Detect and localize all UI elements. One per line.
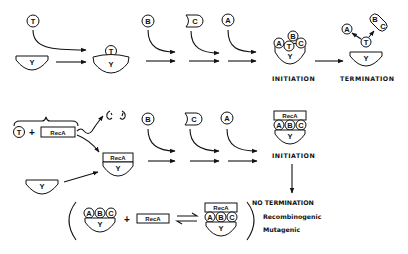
arrow-reca-binding — [77, 135, 99, 152]
svg-text:T: T — [17, 128, 22, 137]
arrow-c-binding — [191, 31, 219, 53]
termination-complex: Y T A B C — [342, 14, 387, 66]
arrow-c-binding-bottom — [190, 129, 219, 151]
molecule-t-top: T — [27, 15, 39, 27]
initiation-complex-top: Y A C B T — [274, 31, 306, 64]
svg-text:C: C — [192, 17, 198, 26]
molecule-y-bottom: Y — [26, 180, 58, 194]
svg-text:A: A — [207, 213, 213, 222]
initiation-complex-bottom: RecA A B C Y — [274, 111, 306, 144]
label-no-termination: NO TERMINATION — [252, 199, 314, 206]
svg-text:Y: Y — [287, 52, 292, 61]
plus-sign-equation: + — [124, 214, 130, 225]
complex-reca-y: RecA Y — [103, 153, 133, 176]
svg-text:Y: Y — [363, 54, 368, 63]
complex-abc-y: A B C Y — [84, 208, 116, 232]
svg-text:A: A — [344, 25, 350, 34]
svg-text:RecA: RecA — [282, 113, 298, 119]
svg-text:Y: Y — [29, 58, 34, 67]
svg-text:B: B — [97, 209, 103, 218]
svg-text:A: A — [225, 16, 231, 25]
svg-text:C: C — [298, 39, 304, 48]
complex-reca-abc-y: RecA A B C Y — [205, 203, 237, 236]
svg-text:B: B — [372, 15, 378, 24]
svg-text:C: C — [191, 115, 197, 124]
svg-text:C: C — [229, 213, 235, 222]
svg-text:B: B — [287, 121, 293, 130]
svg-text:RecA: RecA — [213, 205, 229, 211]
degraded-t-fragments — [107, 111, 125, 119]
svg-text:A: A — [276, 39, 282, 48]
svg-text:T: T — [364, 38, 369, 47]
svg-text:RecA: RecA — [50, 130, 66, 136]
svg-text:B: B — [145, 115, 151, 124]
svg-text:Y: Y — [39, 182, 44, 191]
molecule-a-bottom: A — [221, 112, 233, 124]
svg-text:T: T — [31, 17, 36, 26]
arrow-a-binding-bottom — [227, 129, 257, 151]
arrow-y-bottom — [64, 172, 98, 182]
arrow-a-binding — [228, 30, 256, 52]
svg-text:B: B — [145, 17, 151, 26]
svg-text:C: C — [108, 209, 114, 218]
svg-text:Y: Y — [287, 132, 292, 141]
svg-text:B: B — [218, 213, 224, 222]
molecule-c-top: C — [186, 15, 203, 27]
molecule-b-bottom: B — [142, 113, 154, 125]
label-initiation-bottom: INITIATION — [272, 152, 315, 159]
arrow-b-binding-bottom — [148, 129, 175, 151]
arrow-t-binding — [33, 30, 86, 50]
equilibrium-arrows — [177, 213, 197, 224]
molecule-b-top: B — [142, 15, 154, 27]
reca-equation: RecA — [137, 214, 169, 223]
molecule-y-top: Y — [16, 56, 48, 70]
svg-text:A: A — [224, 114, 230, 123]
svg-text:RecA: RecA — [145, 216, 161, 222]
left-paren — [69, 202, 76, 240]
plus-sign: + — [29, 127, 35, 138]
pathway-diagram: T Y T Y B C A Y A C B — [0, 0, 408, 254]
molecule-t-bottom: T — [14, 127, 25, 138]
brace — [14, 117, 78, 126]
svg-text:C: C — [380, 22, 386, 31]
label-termination: TERMINATION — [340, 75, 394, 82]
arrow-b-binding — [148, 30, 175, 52]
molecule-c-bottom: C — [185, 113, 202, 125]
reca-bottom-left: RecA — [41, 127, 75, 137]
label-recombinogenic: Recombinogenic — [263, 213, 322, 221]
svg-text:B: B — [290, 32, 296, 41]
label-initiation-top: INITIATION — [272, 75, 315, 82]
svg-text:Y: Y — [97, 220, 102, 229]
svg-text:A: A — [276, 121, 282, 130]
svg-text:C: C — [298, 121, 304, 130]
label-mutagenic: Mutagenic — [263, 226, 300, 234]
right-paren — [247, 202, 254, 240]
complex-t-y: T Y — [93, 46, 129, 74]
svg-text:T: T — [287, 42, 292, 51]
svg-text:Y: Y — [108, 60, 113, 69]
wavy-arrow-degradation — [77, 116, 103, 134]
svg-text:A: A — [86, 209, 92, 218]
svg-text:Y: Y — [115, 164, 120, 173]
svg-text:Y: Y — [218, 224, 223, 233]
svg-text:RecA: RecA — [110, 155, 126, 161]
molecule-a-top: A — [222, 14, 234, 26]
